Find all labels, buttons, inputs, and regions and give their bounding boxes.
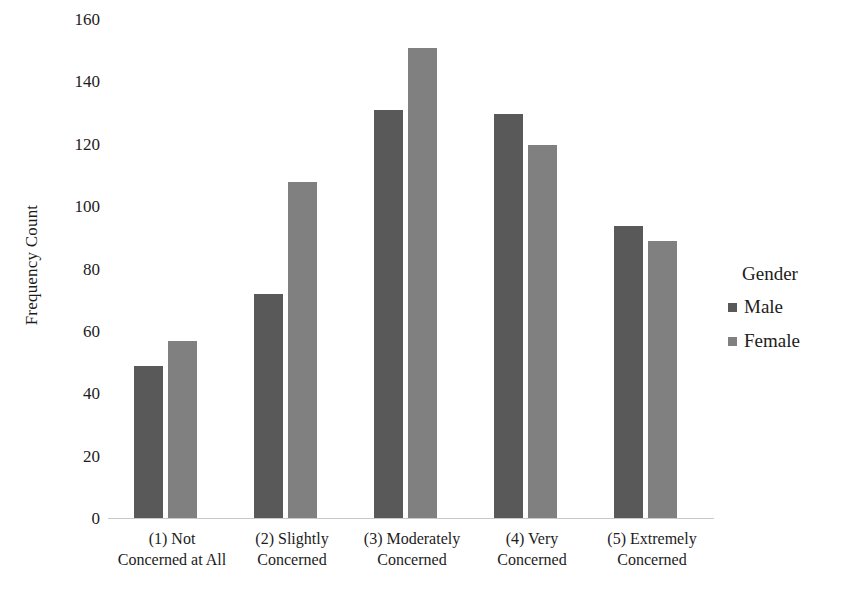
legend-title: Gender <box>742 262 846 286</box>
bar-male[interactable] <box>614 226 643 519</box>
legend-swatch-icon <box>728 303 737 312</box>
bar-group <box>232 20 352 519</box>
y-tick-label: 120 <box>38 136 100 153</box>
x-tick-label: (5) ExtremelyConcerned <box>577 528 727 570</box>
y-tick-label: 40 <box>38 385 100 402</box>
y-axis-tick-labels: 160140120100806040200 <box>38 0 100 595</box>
y-tick-label: 160 <box>38 11 100 28</box>
legend: Gender MaleFemale <box>728 262 846 363</box>
bar-male[interactable] <box>134 366 163 519</box>
bar-male[interactable] <box>494 114 523 519</box>
legend-item[interactable]: Male <box>728 295 846 319</box>
y-tick-label: 20 <box>38 448 100 465</box>
bar-group <box>352 20 472 519</box>
bar-group <box>112 20 232 519</box>
legend-label: Male <box>744 296 783 318</box>
legend-items: MaleFemale <box>728 295 846 353</box>
y-tick-label: 80 <box>38 261 100 278</box>
legend-item[interactable]: Female <box>728 329 846 353</box>
bar-female[interactable] <box>648 241 677 519</box>
y-tick-label: 0 <box>38 510 100 527</box>
x-axis-baseline <box>108 518 714 519</box>
legend-label: Female <box>744 330 800 352</box>
y-tick-label: 100 <box>38 198 100 215</box>
x-tick-label-line: Concerned <box>577 549 727 570</box>
bar-female[interactable] <box>528 145 557 519</box>
bar-female[interactable] <box>288 182 317 519</box>
bar-group <box>472 20 592 519</box>
bar-female[interactable] <box>408 48 437 519</box>
bar-male[interactable] <box>254 294 283 519</box>
bar-female[interactable] <box>168 341 197 519</box>
bar-group <box>592 20 712 519</box>
y-tick-label: 60 <box>38 323 100 340</box>
x-tick-label-line: (5) Extremely <box>577 528 727 549</box>
legend-swatch-icon <box>728 337 737 346</box>
bar-male[interactable] <box>374 110 403 519</box>
bar-chart: Frequency Count 160140120100806040200 (1… <box>0 0 848 595</box>
y-tick-label: 140 <box>38 73 100 90</box>
plot-area <box>112 20 712 519</box>
